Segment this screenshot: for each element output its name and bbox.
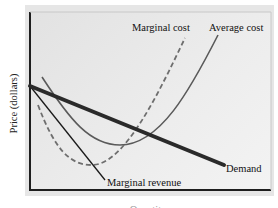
demand-label: Demand xyxy=(226,163,262,174)
marginal-cost-curve xyxy=(38,38,185,165)
average-cost-label: Average cost xyxy=(209,22,263,33)
chart-svg: Marginal cost Average cost Demand Margin… xyxy=(0,0,278,208)
marginal-cost-label: Marginal cost xyxy=(132,22,190,33)
demand-line xyxy=(30,86,224,165)
marginal-revenue-label: Marginal revenue xyxy=(107,177,181,188)
